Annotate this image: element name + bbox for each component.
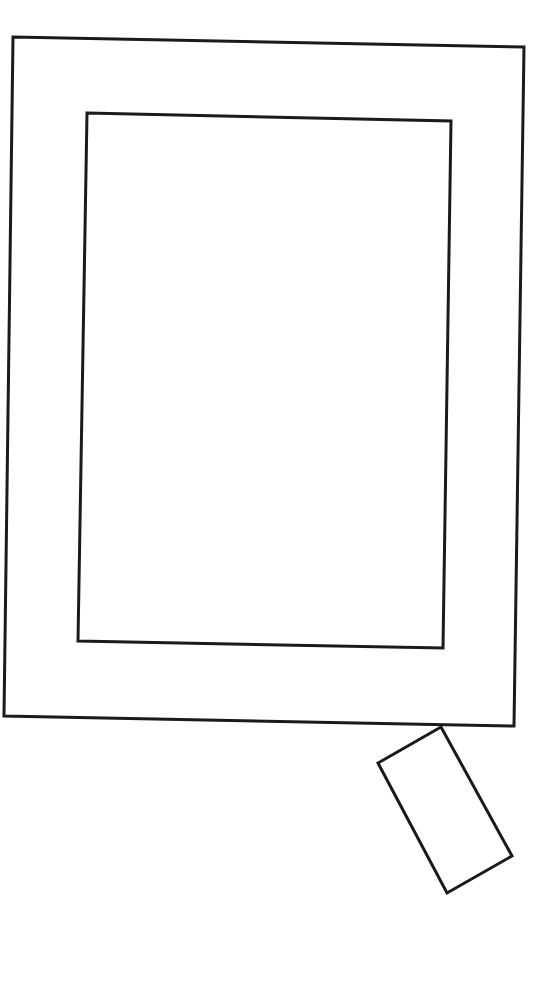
- device-drawing: [0, 0, 538, 987]
- inner-screen: [78, 113, 451, 648]
- attached-tab: [378, 727, 512, 893]
- diagram-canvas: [0, 0, 538, 987]
